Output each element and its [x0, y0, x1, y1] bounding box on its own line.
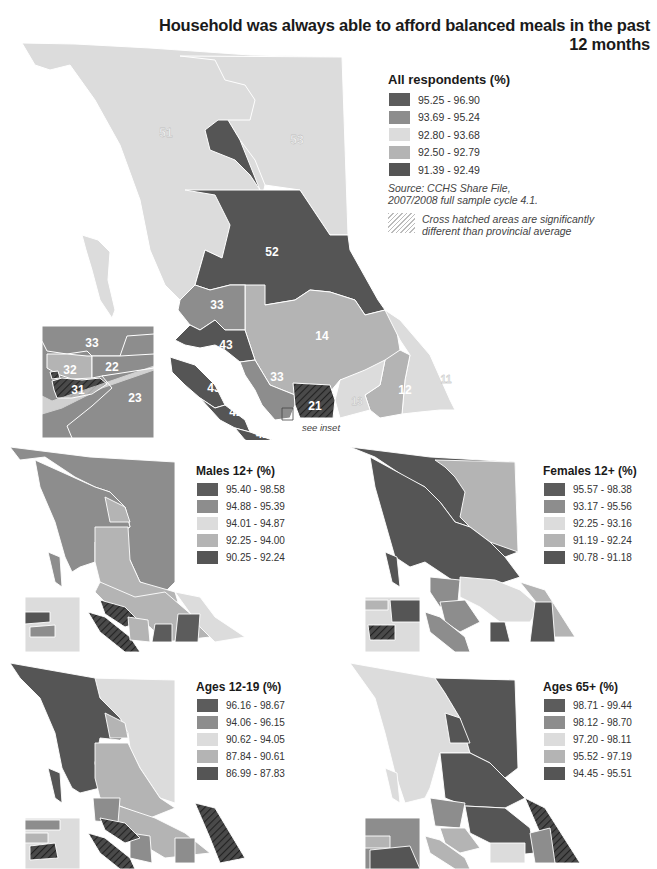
label-52: 52: [265, 245, 279, 259]
swatch-class-1: [196, 482, 219, 497]
swatch-class-4: [543, 533, 566, 548]
swatch-class-2: [196, 499, 219, 514]
legend-item: 92.50 - 92.79: [388, 144, 594, 162]
legend-label: 90.62 - 94.05: [226, 734, 285, 745]
legend-item: 90.62 - 94.05: [196, 731, 285, 748]
legend-item: 90.78 - 91.18: [543, 549, 637, 566]
label-53: 53: [290, 133, 304, 147]
label-33: 33: [210, 298, 224, 312]
swatch-class-3: [543, 732, 566, 747]
label-51: 51: [159, 126, 173, 140]
haida-gwaii: [82, 235, 115, 318]
legend-label: 93.69 - 95.24: [418, 111, 480, 123]
label-43-mainland: 43: [219, 338, 233, 352]
males-legend: Males 12+ (%) 95.40 - 98.58 94.88 - 95.3…: [196, 464, 285, 566]
legend-label: 92.25 - 94.00: [226, 535, 285, 546]
legend-label: 98.12 - 98.70: [573, 717, 632, 728]
legend-label: 94.06 - 96.15: [226, 717, 285, 728]
legend-item: 86.99 - 87.83: [196, 765, 285, 782]
inset-label-31: 31: [71, 383, 85, 397]
legend-title: Ages 12-19 (%): [196, 680, 285, 694]
inset-label-33: 33: [85, 336, 99, 350]
ages-12-19-legend: Ages 12-19 (%) 96.16 - 98.67 94.06 - 96.…: [196, 680, 285, 782]
hatch-pattern-icon: [388, 213, 415, 233]
hatch-line-1: Cross hatched areas are significantly: [422, 213, 594, 226]
label-14: 14: [315, 329, 329, 343]
legend-item: 91.39 - 92.49: [388, 161, 594, 179]
source-note: Source: CCHS Share File, 2007/2008 full …: [388, 182, 594, 207]
inset-label-22: 22: [105, 360, 119, 374]
swatch-class-5: [543, 550, 566, 565]
ages-65-legend: Ages 65+ (%) 98.71 - 99.44 98.12 - 98.70…: [543, 680, 632, 782]
swatch-class-3: [388, 127, 411, 142]
legend-item: 91.19 - 92.24: [543, 532, 637, 549]
swatch-class-4: [196, 749, 219, 764]
legend-label: 93.17 - 95.56: [573, 501, 632, 512]
legend-item: 93.17 - 95.56: [543, 498, 637, 515]
legend-title: Females 12+ (%): [543, 464, 637, 478]
legend-item: 92.80 - 93.68: [388, 126, 594, 144]
legend-label: 92.50 - 92.79: [418, 146, 480, 158]
legend-label: 94.88 - 95.39: [226, 501, 285, 512]
legend-title: Ages 65+ (%): [543, 680, 632, 694]
swatch-class-1: [388, 92, 411, 107]
swatch-class-4: [543, 749, 566, 764]
hatch-note: Cross hatched areas are significantly di…: [388, 213, 594, 238]
inset-31b: [50, 371, 60, 379]
swatch-class-2: [543, 715, 566, 730]
label-21: 21: [308, 399, 322, 413]
swatch-class-5: [196, 766, 219, 781]
legend-item: 90.25 - 92.24: [196, 549, 285, 566]
hatch-line-2: different than provincial average: [422, 225, 594, 238]
inset-label-32: 32: [63, 363, 77, 377]
legend-label: 98.71 - 99.44: [573, 700, 632, 711]
main-legend: All respondents (%) 95.25 - 96.90 93.69 …: [388, 72, 594, 238]
swatch-class-1: [543, 698, 566, 713]
swatch-class-2: [196, 715, 219, 730]
legend-label: 91.19 - 92.24: [573, 535, 632, 546]
legend-label: 92.80 - 93.68: [418, 129, 480, 141]
legend-item: 98.71 - 99.44: [543, 697, 632, 714]
legend-item: 97.20 - 98.11: [543, 731, 632, 748]
legend-label: 87.84 - 90.61: [226, 751, 285, 762]
legend-item: 95.57 - 98.38: [543, 481, 637, 498]
swatch-class-5: [543, 766, 566, 781]
label-33-south: 33: [270, 370, 284, 384]
legend-label: 90.25 - 92.24: [226, 552, 285, 563]
legend-item: 94.01 - 94.87: [196, 515, 285, 532]
swatch-class-5: [388, 162, 411, 177]
inset-map: 33 22 32 31 23: [42, 326, 154, 438]
source-line-2: 2007/2008 full sample cycle 4.1.: [388, 194, 594, 207]
legend-label: 95.40 - 98.58: [226, 484, 285, 495]
label-13: 13: [351, 395, 363, 407]
legend-label: 97.20 - 98.11: [573, 734, 631, 745]
legend-item: 95.40 - 98.58: [196, 481, 285, 498]
swatch-class-2: [543, 499, 566, 514]
legend-item: 94.45 - 95.51: [543, 765, 632, 782]
legend-title: Males 12+ (%): [196, 464, 285, 478]
swatch-class-1: [543, 482, 566, 497]
inset-label-23: 23: [128, 391, 142, 405]
legend-item: 92.25 - 93.16: [543, 515, 637, 532]
see-inset-note: see inset: [302, 422, 340, 433]
legend-item: 95.25 - 96.90: [388, 91, 594, 109]
swatch-class-3: [196, 516, 219, 531]
legend-label: 92.25 - 93.16: [573, 518, 632, 529]
legend-label: 95.52 - 97.19: [573, 751, 632, 762]
legend-label: 90.78 - 91.18: [573, 552, 632, 563]
females-legend: Females 12+ (%) 95.57 - 98.38 93.17 - 95…: [543, 464, 637, 566]
swatch-class-4: [388, 145, 411, 160]
legend-item: 96.16 - 98.67: [196, 697, 285, 714]
legend-label: 94.45 - 95.51: [573, 768, 632, 779]
legend-label: 95.25 - 96.90: [418, 94, 480, 106]
legend-item: 98.12 - 98.70: [543, 714, 632, 731]
legend-label: 94.01 - 94.87: [226, 518, 285, 529]
legend-title: All respondents (%): [388, 72, 594, 87]
legend-label: 95.57 - 98.38: [573, 484, 632, 495]
swatch-class-3: [196, 732, 219, 747]
legend-item: 94.06 - 96.15: [196, 714, 285, 731]
label-43-island: 43: [207, 381, 221, 395]
label-42: 42: [229, 405, 243, 419]
legend-item: 95.52 - 97.19: [543, 748, 632, 765]
source-line-1: Source: CCHS Share File,: [388, 182, 594, 195]
